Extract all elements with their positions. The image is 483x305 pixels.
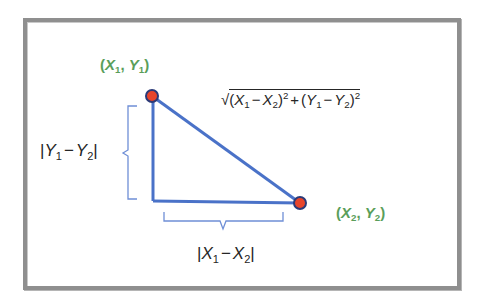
y-var: Y [129, 56, 139, 73]
point-2-marker [294, 197, 306, 209]
paren-close: ) [144, 56, 149, 73]
abs-bar-close: | [250, 244, 254, 263]
a-var: X [201, 244, 212, 263]
point-1-label: (X1, Y1) [100, 57, 149, 75]
a-var: Y [44, 141, 55, 160]
point-2-label: (X2, Y2) [336, 205, 385, 223]
radicand: (X1−X2)2+(Y1−Y2)2 [229, 89, 360, 108]
minus: − [322, 91, 335, 108]
y1-var: Y [306, 91, 316, 108]
x-var: X [105, 56, 115, 73]
b-var: Y [76, 141, 87, 160]
y2-var: Y [334, 91, 344, 108]
minus: − [219, 244, 233, 263]
plus: + [288, 91, 301, 108]
paren-close: ) [380, 204, 385, 221]
minus: − [62, 141, 76, 160]
vertical-leg-label: |Y1−Y2| [40, 142, 98, 162]
hypotenuse-formula: √(X1−X2)2+(Y1−Y2)2 [221, 91, 360, 110]
vertical-brace [123, 106, 137, 199]
point-1-marker [146, 90, 158, 102]
x1-var: X [234, 91, 244, 108]
horizontal-leg [153, 201, 300, 203]
a-sub: 1 [56, 150, 62, 162]
abs-bar-close: | [93, 141, 97, 160]
y1-sub: 1 [316, 99, 321, 110]
horizontal-brace [164, 212, 283, 229]
horizontal-leg-label: |X1−X2| [197, 245, 255, 265]
y-var: Y [365, 204, 375, 221]
x1-sub: 1 [244, 99, 249, 110]
comma: , [356, 204, 364, 221]
x-var: X [341, 204, 351, 221]
x2-var: X [262, 91, 272, 108]
a-sub: 1 [213, 253, 219, 265]
comma: , [120, 56, 128, 73]
exponent: 2 [355, 90, 360, 101]
radical-sign: √ [221, 91, 229, 108]
b-var: X [233, 244, 244, 263]
hypotenuse [152, 96, 300, 203]
minus: − [250, 91, 263, 108]
